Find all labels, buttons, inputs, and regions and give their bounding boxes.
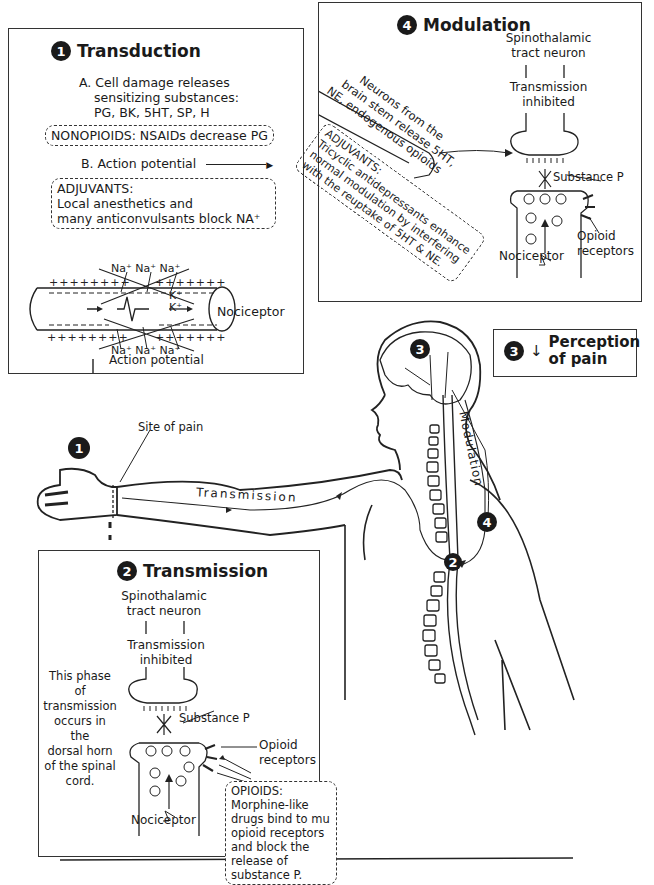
site-of-pain-label: Site of pain [138,420,203,435]
opioid-receptors-label-transmission: Opioid receptors [259,738,316,768]
opioids-note: OPIOIDS: Morphine-like drugs bind to mu … [225,781,337,885]
substance-p-label-transmission: Substance P [179,711,250,726]
nociceptor-label-transmission: Nociceptor [131,813,196,828]
marker-4: 4 [477,512,497,532]
marker-1: 1 [68,437,90,459]
transmission-panel: 2 Transmission Spinothalamic tract neuro… [38,550,320,857]
marker-2: 2 [444,553,462,571]
marker-3: 3 [410,339,430,359]
